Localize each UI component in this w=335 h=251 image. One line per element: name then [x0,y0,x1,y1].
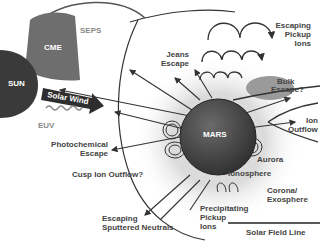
svg-text:Ion: Ion [306,116,318,125]
svg-text:Escape: Escape [161,59,190,68]
svg-text:Escaping: Escaping [275,21,311,30]
svg-text:Outflow: Outflow [288,125,319,134]
cusp-ion-outflow-label: Cusp Ion Outflow? [72,170,143,179]
svg-text:Ions: Ions [200,222,217,231]
svg-text:Sputtered Neutrals: Sputtered Neutrals [102,223,174,232]
sun-label: SUN [8,79,25,88]
svg-text:Escaping: Escaping [102,214,138,223]
euv-label: EUV [38,121,55,130]
svg-text:Escape?: Escape? [271,85,304,94]
svg-text:Pickup: Pickup [285,30,311,39]
solar-field-line-label: Solar Field Line [246,228,306,237]
seps-label: SEPS [80,26,102,35]
photochemical-escape-label: Photochemical Escape [51,140,108,158]
svg-text:Jeans: Jeans [166,50,189,59]
corona-exosphere-label: Corona/ Exosphere [267,186,308,204]
jeans-escape-label: Jeans Escape [161,50,190,68]
svg-text:Pickup: Pickup [200,213,226,222]
bow-shock-curve [130,10,235,22]
svg-text:Escape: Escape [80,149,109,158]
svg-text:Photochemical: Photochemical [51,140,108,149]
escaping-pickup-ions-label: Escaping Pickup Ions [275,21,311,48]
euv-wave-icon [46,106,82,110]
svg-text:Exosphere: Exosphere [267,195,308,204]
svg-text:Ions: Ions [295,39,312,48]
aurora-label: Aurora [257,155,284,164]
mars-atmospheric-escape-diagram: SUN CME SEPS Solar Wind EUV MARS Escapin… [0,0,335,251]
svg-text:Corona/: Corona/ [267,186,298,195]
svg-text:Precipitating: Precipitating [200,204,249,213]
mars-label: MARS [203,130,227,139]
cme-label: CME [44,43,62,52]
ionosphere-label: Ionosphere [228,169,272,178]
